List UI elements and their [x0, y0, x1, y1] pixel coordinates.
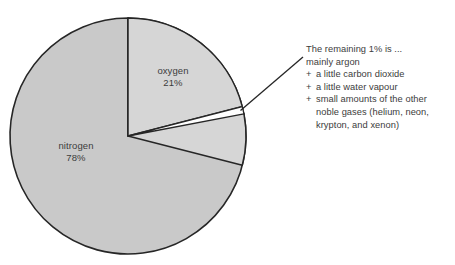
callout-leader-line: [241, 57, 304, 111]
annotation-bullet-3-text: small amounts of the other: [316, 94, 427, 104]
bullet-marker-2: +: [306, 81, 316, 94]
annotation-bullet-1: +a little carbon dioxide: [306, 68, 454, 81]
annotation-bullet-2: +a little water vapour: [306, 81, 454, 94]
annotation-bullet-3-cont-2: krypton, and xenon): [306, 119, 454, 132]
pie-chart-figure: oxygen 21% nitrogen 78% The remaining 1%…: [0, 0, 455, 265]
pie-label-oxygen: oxygen 21%: [140, 65, 206, 88]
annotation-bullet-1-text: a little carbon dioxide: [316, 69, 405, 79]
pie-chart-graphic: [0, 0, 455, 265]
annotation-bullet-3: +small amounts of the other: [306, 93, 454, 106]
pie-label-nitrogen: nitrogen 78%: [38, 140, 114, 163]
annotation-line-2: mainly argon: [306, 56, 454, 69]
annotation-bullet-2-text: a little water vapour: [316, 82, 398, 92]
pie-label-nitrogen-name: nitrogen: [38, 140, 114, 152]
bullet-marker-3: +: [306, 93, 316, 106]
annotation-bullet-3-cont-1: noble gases (helium, neon,: [306, 106, 454, 119]
annotation-line-1: The remaining 1% is ...: [306, 43, 454, 56]
callout-annotation: The remaining 1% is ... mainly argon +a …: [306, 43, 454, 131]
pie-label-oxygen-percent: 21%: [140, 77, 206, 89]
pie-label-oxygen-name: oxygen: [140, 65, 206, 77]
bullet-marker-1: +: [306, 68, 316, 81]
pie-label-nitrogen-percent: 78%: [38, 152, 114, 164]
